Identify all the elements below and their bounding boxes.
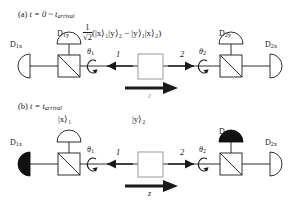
panel-b: (b) t = tarrival |x⟩₁ |y⟩₂	[0, 98, 299, 199]
beam-arrow-right	[168, 160, 194, 169]
detector-d1x	[18, 54, 30, 78]
beam-splitter-left	[58, 153, 80, 175]
detector-d1x-fired	[18, 152, 30, 176]
z-axis-arrow	[125, 82, 178, 94]
label-d2y: D2y	[219, 128, 231, 136]
label-d2y: D2y	[219, 30, 231, 38]
label-d1x: D1x	[10, 41, 22, 49]
rotation-marker-left	[88, 60, 98, 74]
beam-label-1: 1	[116, 148, 120, 157]
beam-label-2: 2	[180, 148, 184, 157]
beam-arrow-right	[168, 62, 194, 71]
label-theta1: θ1	[87, 48, 94, 56]
z-axis-arrow	[125, 180, 178, 192]
label-theta1: θ1	[87, 146, 94, 154]
photon-source-box	[138, 54, 163, 79]
detector-d2x	[270, 54, 282, 78]
beam-arrow-left	[107, 160, 133, 169]
panel-b-optics	[0, 98, 299, 199]
figure-quantum-detection-schematic: (a) t = 0 ~ tarrival 1√2(|x⟩₁|y⟩₂ − |y⟩₁…	[0, 0, 299, 202]
detector-d2x	[270, 152, 282, 176]
panel-a: (a) t = 0 ~ tarrival 1√2(|x⟩₁|y⟩₂ − |y⟩₁…	[0, 0, 299, 101]
panel-a-optics	[0, 0, 299, 101]
rotation-marker-right	[199, 158, 209, 172]
detector-d1y	[57, 130, 81, 142]
beam-label-2: 2	[180, 50, 184, 59]
beam-splitter-right	[220, 153, 242, 175]
photon-source-box	[138, 152, 163, 177]
rotation-marker-left	[88, 158, 98, 172]
label-d1y: D1y	[57, 30, 69, 38]
beam-splitter-left	[58, 55, 80, 77]
rotation-marker-right	[199, 60, 209, 74]
label-d2x: D2x	[265, 139, 277, 147]
label-d1x: D1x	[10, 139, 22, 147]
beam-label-1: 1	[116, 50, 120, 59]
label-d2x: D2x	[265, 41, 277, 49]
beam-splitter-right	[220, 55, 242, 77]
label-theta2: θ2	[199, 146, 206, 154]
label-theta2: θ2	[199, 48, 206, 56]
label-z-axis-b: z	[148, 190, 151, 198]
beam-arrow-left	[107, 62, 133, 71]
